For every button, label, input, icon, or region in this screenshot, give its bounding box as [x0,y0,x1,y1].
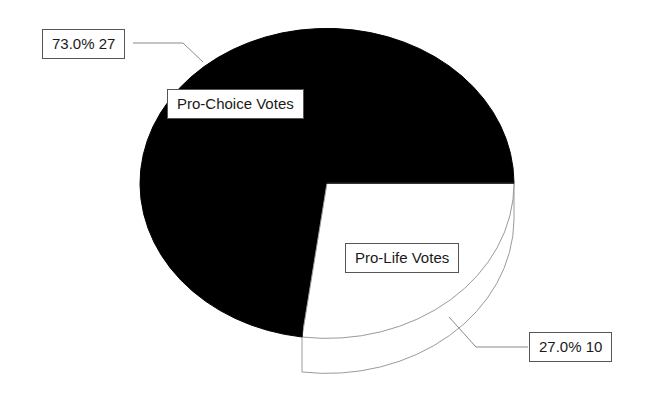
pro-life-category-label: Pro-Life Votes [345,243,459,273]
pro-choice-data-label: 73.0% 27 [42,29,125,59]
pro-choice-leader-line [133,43,203,62]
pro-life-data-label: 27.0% 10 [529,332,612,362]
pro-choice-category-label: Pro-Choice Votes [167,89,304,119]
